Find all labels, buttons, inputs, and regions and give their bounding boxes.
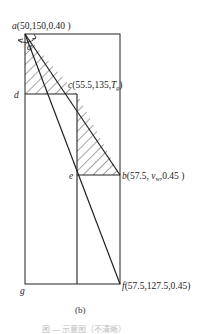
point-c-label: c(55.5,135,Tg) [68, 80, 122, 91]
figure-caption: 图 — 示意图（不清晰） [42, 324, 126, 334]
hatched-region-cbe [77, 94, 120, 175]
point-f-label: f(57.5,127.5,0.45) [122, 281, 190, 292]
point-d-label: d [14, 90, 19, 100]
line-acb [25, 34, 120, 175]
diagram-canvas: a(50,150,0.40 ) α c(55.5,135,Tg) d e b(5… [0, 0, 216, 334]
point-b-label: b(57.5, vw,0.45 ) [122, 171, 184, 182]
point-e-label: e [69, 171, 73, 181]
point-a-label: a(50,150,0.40 ) [12, 21, 71, 32]
point-g-label: g [20, 286, 25, 296]
angle-arrow-right [32, 34, 36, 39]
subfigure-label: (b) [75, 305, 86, 315]
